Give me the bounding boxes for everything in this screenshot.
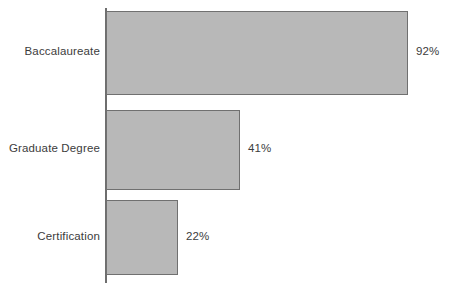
- bar-row: Baccalaureate 92%: [0, 11, 449, 95]
- bar-category-label: Certification: [0, 230, 100, 242]
- bar-rect[interactable]: [106, 200, 178, 275]
- bar-chart: Baccalaureate 92% Graduate Degree 41% Ce…: [0, 0, 449, 293]
- bar-row: Certification 22%: [0, 200, 449, 275]
- bar-rect[interactable]: [106, 110, 240, 190]
- bar-category-label: Graduate Degree: [0, 142, 100, 154]
- bar-rect[interactable]: [106, 11, 408, 95]
- bar-value-label: 22%: [186, 230, 209, 242]
- bar-category-label: Baccalaureate: [0, 45, 100, 57]
- bar-value-label: 41%: [248, 142, 271, 154]
- bar-value-label: 92%: [416, 45, 439, 57]
- bar-row: Graduate Degree 41%: [0, 110, 449, 190]
